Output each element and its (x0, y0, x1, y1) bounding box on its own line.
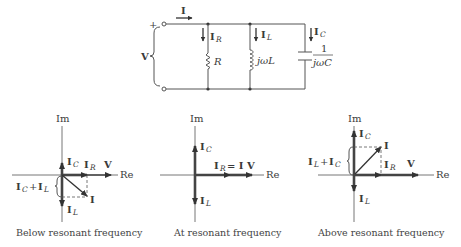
phasor-at-resonance: Im Re I C I L I R = I V At resonant freq… (160, 113, 282, 238)
top-terminal (162, 22, 166, 26)
im-axis-label: Im (348, 113, 362, 124)
re-axis-label: Re (120, 169, 134, 180)
svg-text:1: 1 (321, 43, 327, 54)
svg-text:I: I (84, 159, 89, 170)
resistor-branch: I R R (203, 24, 222, 89)
inductor-label: jωL (255, 55, 275, 66)
circuit-diagram: + V I I R R I L jωL (140, 5, 333, 91)
svg-text:R: R (219, 164, 226, 173)
caption-at: At resonant frequency (173, 227, 282, 238)
svg-text:C: C (335, 160, 341, 169)
svg-text:I: I (359, 128, 364, 139)
svg-text:L: L (72, 208, 78, 217)
phasor-below-resonance: Im Re I C I L I R V I I C + I L Below re… (12, 113, 143, 238)
bottom-terminal (162, 87, 166, 91)
caption-below: Below resonant frequency (16, 227, 143, 238)
im-axis-label: Im (190, 113, 204, 124)
capacitor-label: jωC (311, 57, 332, 68)
resistor-icon (206, 53, 210, 69)
svg-text:V: V (103, 159, 112, 170)
svg-text:I: I (329, 156, 334, 167)
voltage-brace (150, 27, 160, 86)
im-axis-label: Im (56, 113, 70, 124)
re-axis-label: Re (436, 169, 450, 180)
svg-text:V: V (246, 160, 255, 171)
phasor-above-resonance: Im Re I C I L I R V I I L + I C Above re… (308, 113, 450, 238)
svg-text:I: I (67, 156, 72, 167)
svg-text:R: R (389, 163, 396, 172)
source-voltage-label: V (140, 51, 149, 62)
svg-text:I: I (384, 140, 389, 151)
svg-text:R: R (89, 163, 96, 172)
capacitor-branch: I C 1 jωC (298, 26, 333, 68)
total-current-label: I (181, 5, 186, 16)
svg-text:C: C (22, 185, 28, 194)
svg-text:C: C (73, 160, 79, 169)
svg-text:= I: = I (227, 160, 244, 171)
svg-text:V: V (406, 158, 415, 169)
top-wire (166, 24, 305, 52)
parallel-rlc-figure: + V I I R R I L jωL (0, 0, 461, 247)
svg-text:I: I (308, 156, 313, 167)
i-phasor (62, 175, 87, 196)
caption-above: Above resonant frequency (317, 227, 445, 238)
resistor-label: R (213, 56, 222, 67)
sum-brace (347, 147, 353, 175)
svg-text:+: + (320, 156, 328, 167)
svg-text:I: I (314, 26, 319, 37)
svg-text:R: R (215, 35, 222, 44)
svg-text:L: L (313, 160, 319, 169)
svg-text:C: C (206, 145, 212, 154)
svg-text:I: I (16, 181, 21, 192)
svg-text:I: I (200, 141, 205, 152)
svg-text:I: I (384, 159, 389, 170)
svg-text:I: I (359, 193, 364, 204)
svg-text:L: L (364, 197, 370, 206)
inductor-icon (250, 50, 253, 70)
svg-text:+: + (29, 181, 37, 192)
svg-text:L: L (266, 33, 272, 42)
svg-text:C: C (320, 30, 326, 39)
re-axis-label: Re (266, 169, 280, 180)
bottom-wire (166, 60, 305, 89)
svg-text:I: I (38, 181, 43, 192)
svg-text:I: I (210, 31, 215, 42)
plus-sign: + (149, 19, 157, 30)
svg-text:I: I (214, 160, 219, 171)
svg-text:I: I (200, 195, 205, 206)
svg-text:I: I (67, 204, 72, 215)
svg-text:L: L (205, 199, 211, 208)
inductor-branch: I L jωL (250, 24, 275, 89)
i-phasor (355, 147, 381, 174)
svg-text:L: L (43, 185, 49, 194)
svg-text:I: I (90, 194, 95, 205)
svg-text:C: C (365, 132, 371, 141)
svg-text:I: I (261, 29, 266, 40)
